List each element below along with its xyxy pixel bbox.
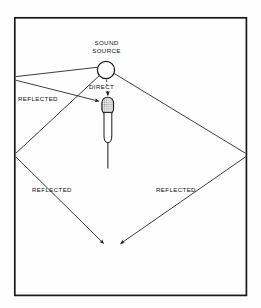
- reflected-label-upper-left: REFLECTED: [18, 95, 58, 103]
- acoustic-reflection-diagram: [0, 0, 261, 308]
- sound-source-circle: [97, 61, 114, 78]
- direct-label: DIRECT: [89, 83, 114, 91]
- reflected-label-lower-right: REFLECTED: [156, 186, 196, 194]
- sound-source-label-line2: SOURCE: [84, 47, 129, 55]
- ray-reflected-lower-right: [112, 72, 245, 243]
- sound-source-label-line1: SOUND: [84, 39, 129, 47]
- microphone-body: [104, 112, 112, 142]
- microphone: [102, 97, 114, 168]
- reflected-label-lower-left: REFLECTED: [32, 186, 72, 194]
- figure-canvas: SOUND SOURCE DIRECT REFLECTED REFLECTED …: [0, 0, 261, 308]
- room-boundary: [15, 18, 247, 296]
